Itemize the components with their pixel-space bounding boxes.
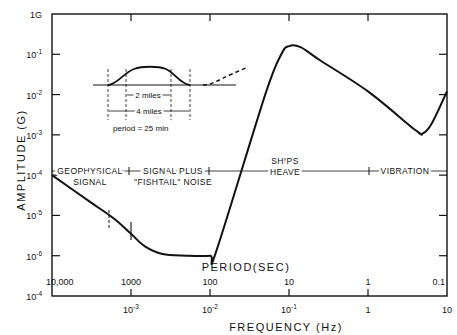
y-tick-label: 10-4 (26, 169, 42, 181)
period-tick-label: 100 (202, 277, 217, 287)
period-axis-title: PERIOD(SEC) (202, 261, 291, 273)
x-origin-label: 10-4 (26, 290, 42, 302)
amplitude-frequency-chart: 1G10-110-210-310-410-510-6 10-310-210-11… (0, 0, 457, 335)
region-label-ships-heave: SHIPS (271, 156, 299, 166)
y-tick-label: 10-2 (26, 89, 42, 101)
region-label-fishtail: "FISHTAIL" NOISE (134, 177, 212, 187)
region-label-ships-heave: HEAVE (270, 167, 300, 177)
region-annotations: GEOPHYSICALSIGNALSIGNAL PLUS"FISHTAIL" N… (52, 156, 447, 187)
x-axis-title: FREQUENCY (Hz) (229, 321, 343, 333)
inset-caption: period = 25 min (113, 124, 168, 133)
series-curve (52, 45, 447, 264)
amplitude-curve (52, 45, 447, 264)
inset-inner-label: 2 miles (135, 91, 160, 100)
x-tick-label: 10 (442, 305, 452, 315)
period-axis: 10,00010001001010.1 (46, 277, 445, 287)
inset-anomaly-sketch: 2 miles4 milesperiod = 25 min (93, 67, 248, 133)
region-label-fishtail: SIGNAL PLUS (143, 166, 203, 176)
x-tick-label: 10-3 (123, 303, 139, 315)
x-tick-label: 10-1 (281, 303, 297, 315)
region-label-vibration: VIBRATION (381, 166, 430, 176)
y-tick-label: 10-5 (26, 209, 42, 221)
x-tick-label: 10-2 (202, 303, 218, 315)
y-axis-title: AMPLITUDE (G) (15, 109, 27, 210)
period-tick-label: 1000 (121, 277, 141, 287)
period-tick-label: 10 (284, 277, 294, 287)
region-label-geophysical: GEOPHYSICAL (57, 166, 122, 176)
inset-outer-label: 4 miles (136, 107, 161, 116)
region-label-geophysical: SIGNAL (73, 177, 107, 187)
y-tick-label: 10-6 (26, 250, 42, 262)
inset-bump (108, 67, 190, 85)
plot-frame (52, 14, 447, 296)
plot-border (52, 14, 447, 296)
period-tick-label: 10,000 (46, 277, 74, 287)
x-tick-label: 1 (365, 305, 370, 315)
y-tick-label: 1G (30, 10, 42, 20)
y-tick-label: 10-3 (26, 129, 42, 141)
period-tick-label: 1 (365, 277, 370, 287)
inset-dashed-continuation (203, 67, 248, 85)
period-tick-label: 0.1 (432, 277, 445, 287)
y-tick-label: 10-1 (26, 48, 42, 60)
y-axis: 1G10-110-210-310-410-510-6 (26, 10, 447, 262)
